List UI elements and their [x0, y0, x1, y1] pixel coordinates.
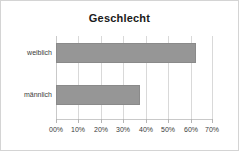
tick-mark-10: [78, 119, 79, 123]
y-axis-tick-label-maennlich: männlich: [24, 90, 52, 99]
plot-area: [56, 36, 213, 119]
bar-weiblich: [56, 43, 196, 63]
y-axis-tick-label-weiblich: weiblich: [27, 48, 52, 57]
tick-mark-30: [123, 119, 124, 123]
y-axis-category-labels: weiblich männlich: [11, 36, 54, 119]
tick-mark-20: [101, 119, 102, 123]
x-axis-tick-marks: [56, 119, 213, 123]
x-axis-tick-label-70: 70%: [197, 125, 227, 134]
bar-maennlich: [56, 85, 140, 105]
chart-container: Geschlecht weiblich männlich: [0, 0, 239, 151]
tick-mark-60: [191, 119, 192, 123]
tick-mark-0: [56, 119, 57, 123]
chart-title: Geschlecht: [1, 12, 238, 25]
x-axis-tick-labels: 00% 10% 20% 30% 40% 50% 60% 70%: [56, 125, 213, 136]
bar-series: [56, 36, 213, 119]
tick-mark-40: [146, 119, 147, 123]
tick-mark-70: [212, 119, 213, 123]
tick-mark-50: [168, 119, 169, 123]
